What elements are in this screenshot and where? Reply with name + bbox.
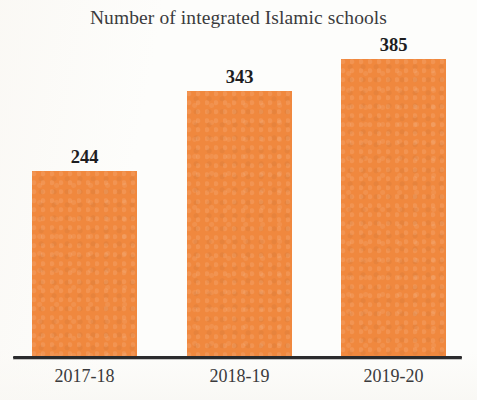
x-axis-label-2018-19: 2018-19 (182, 364, 297, 388)
bar-value-2019-20: 385 (341, 34, 446, 56)
bar-2018-19[interactable] (187, 91, 292, 357)
bar-2019-20[interactable] (341, 59, 446, 357)
bar-value-2018-19: 343 (187, 66, 292, 88)
bar-2017-18[interactable] (32, 171, 137, 357)
x-axis-line (13, 356, 462, 359)
plot-area: 244 343 385 2017-18 2018-19 2019-20 (0, 0, 477, 400)
chart-page: Number of integrated Islamic schools 244… (0, 0, 477, 400)
x-axis-label-2019-20: 2019-20 (336, 364, 451, 388)
bar-value-2017-18: 244 (32, 146, 137, 168)
x-axis-label-2017-18: 2017-18 (27, 364, 142, 388)
